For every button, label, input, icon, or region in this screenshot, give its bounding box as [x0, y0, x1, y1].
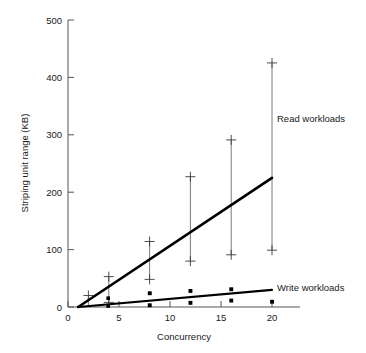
axis-frame [68, 20, 300, 307]
y-tick-label-300: 300 [46, 129, 62, 140]
chart-canvas: 500 400 300 200 100 0 0 5 10 15 20 Concu… [0, 0, 366, 353]
data-point-write [106, 296, 110, 300]
data-point-write [148, 303, 152, 307]
series-label-read: Read workloads [277, 113, 345, 124]
data-point-write [148, 291, 152, 295]
y-axis-title: Striping unit range (KB) [19, 114, 30, 213]
data-point-write [189, 289, 193, 293]
x-tick-label-15: 15 [216, 312, 227, 323]
cropped-caption-text [150, 0, 366, 9]
data-point-write [270, 300, 274, 304]
y-tick-label-400: 400 [46, 72, 62, 83]
data-point-write [189, 301, 193, 305]
x-tick-label-10: 10 [165, 312, 176, 323]
chart-figure: 500 400 300 200 100 0 0 5 10 15 20 Concu… [0, 0, 366, 353]
error-bar-read-x16 [226, 135, 236, 260]
x-tick-label-5: 5 [116, 312, 121, 323]
x-axis-title: Concurrency [157, 331, 211, 342]
x-tick-labels: 0 5 10 15 20 [65, 312, 277, 323]
x-tick-label-20: 20 [267, 312, 278, 323]
y-tick-label-0: 0 [57, 302, 62, 313]
error-bar-read-x12 [185, 172, 195, 266]
y-tick-label-500: 500 [46, 15, 62, 26]
data-point-write [229, 299, 233, 303]
data-point-write [229, 287, 233, 291]
y-tick-labels: 500 400 300 200 100 0 [46, 15, 62, 313]
y-tick-label-100: 100 [46, 244, 62, 255]
x-tick-label-0: 0 [65, 312, 70, 323]
read-error-bars [83, 58, 277, 308]
error-bar-read-x20 [267, 58, 277, 255]
series-label-write: Write workloads [277, 282, 345, 293]
trend-line-read [78, 178, 272, 307]
y-tick-label-200: 200 [46, 187, 62, 198]
axes-group [68, 20, 300, 307]
y-tick-marks [68, 20, 74, 307]
